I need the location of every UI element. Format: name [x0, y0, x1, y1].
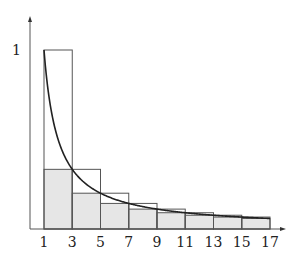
riemann-sum-chart: 1357911131517 1: [0, 0, 300, 260]
y-tick-label-1: 1: [12, 42, 21, 58]
lower-bar: [214, 217, 242, 229]
x-tick-label: 15: [233, 234, 251, 250]
lower-bar: [129, 209, 157, 229]
x-tick-label: 7: [124, 234, 133, 250]
x-tick-label: 9: [153, 234, 162, 250]
lower-bar: [101, 203, 129, 229]
x-tick-label: 5: [96, 234, 105, 250]
lower-bar: [72, 193, 100, 229]
x-tick-label: 1: [40, 234, 49, 250]
x-axis-arrow-icon: [280, 227, 286, 231]
lower-bar: [44, 169, 72, 229]
x-tick-label: 13: [205, 234, 223, 250]
x-tick-label: 3: [68, 234, 77, 250]
x-tick-label: 17: [261, 234, 279, 250]
lower-bar: [242, 218, 270, 229]
lower-bar: [185, 215, 213, 229]
x-tick-labels: 1357911131517: [40, 234, 279, 250]
lower-bar: [157, 213, 185, 229]
y-axis-arrow-icon: [28, 16, 32, 22]
x-tick-label: 11: [176, 234, 194, 250]
